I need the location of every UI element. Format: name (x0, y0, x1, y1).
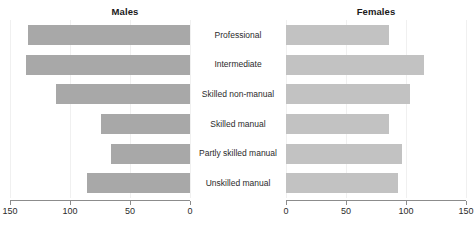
axis-tick-label: 0 (187, 206, 192, 216)
bar-female-skilled-manual (286, 114, 389, 134)
bar-female-intermediate (286, 55, 424, 75)
panel-title-females: Females (286, 6, 466, 17)
bar-row-male (10, 109, 190, 139)
axis-tick-label: 150 (458, 206, 473, 216)
axis-tick (286, 201, 287, 205)
axis-tick-label: 50 (341, 206, 351, 216)
bar-male-unskilled-manual (87, 173, 190, 193)
axis-tick (10, 201, 11, 205)
gridline (466, 20, 467, 198)
bar-male-partly-skilled-manual (111, 144, 190, 164)
x-axis-males (10, 200, 190, 206)
axis-tick (346, 201, 347, 205)
axis-tick-label: 100 (62, 206, 77, 216)
bar-row-female (286, 109, 466, 139)
axis-tick (466, 201, 467, 205)
category-label: Unskilled manual (190, 168, 286, 198)
plot-area-males (10, 20, 190, 198)
panel-title-males: Males (60, 6, 190, 17)
bar-female-professional (286, 25, 389, 45)
bar-female-skilled-non-manual (286, 84, 410, 104)
axis-tick (406, 201, 407, 205)
bar-row-male (10, 50, 190, 80)
bar-male-skilled-manual (101, 114, 190, 134)
category-label: Partly skilled manual (190, 139, 286, 169)
category-label-column: ProfessionalIntermediateSkilled non-manu… (190, 20, 286, 198)
axis-tick-label: 0 (283, 206, 288, 216)
axis-tick (70, 201, 71, 205)
diverging-bar-chart: Males Females ProfessionalIntermediateSk… (0, 0, 475, 227)
bar-female-unskilled-manual (286, 173, 398, 193)
bar-row-male (10, 139, 190, 169)
plot-area-females (286, 20, 466, 198)
bar-male-skilled-non-manual (56, 84, 190, 104)
bar-row-male (10, 79, 190, 109)
bar-row-female (286, 139, 466, 169)
bar-male-professional (28, 25, 190, 45)
category-label: Skilled non-manual (190, 79, 286, 109)
bar-row-male (10, 20, 190, 50)
axis-tick-label: 150 (2, 206, 17, 216)
axis-tick-label: 50 (125, 206, 135, 216)
bar-row-female (286, 20, 466, 50)
bar-female-partly-skilled-manual (286, 144, 402, 164)
bar-row-female (286, 168, 466, 198)
axis-tick (130, 201, 131, 205)
x-axis-females (286, 200, 466, 206)
axis-tick (190, 201, 191, 205)
category-label: Professional (190, 20, 286, 50)
bar-row-female (286, 79, 466, 109)
bar-male-intermediate (26, 55, 190, 75)
axis-tick-label: 100 (398, 206, 413, 216)
category-label: Intermediate (190, 50, 286, 80)
bar-row-female (286, 50, 466, 80)
bar-row-male (10, 168, 190, 198)
category-label: Skilled manual (190, 109, 286, 139)
